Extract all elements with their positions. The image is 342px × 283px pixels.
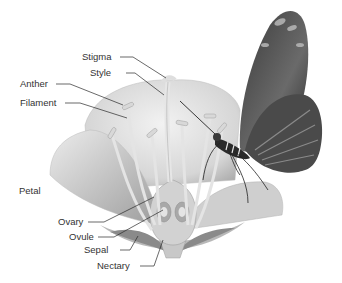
label-petal: Petal — [19, 186, 41, 196]
flower-illustration — [0, 0, 342, 283]
head — [213, 133, 221, 141]
label-filament: Filament — [20, 98, 56, 108]
label-stigma: Stigma — [82, 52, 112, 62]
label-nectary: Nectary — [97, 261, 130, 271]
label-ovule: Ovule — [69, 232, 94, 242]
label-style: Style — [90, 68, 111, 78]
flower-diagram: Stigma Style Anther Filament Petal Ovary… — [0, 0, 342, 283]
leader-stigma — [120, 57, 166, 78]
label-ovary: Ovary — [58, 217, 83, 227]
label-sepal: Sepal — [84, 245, 108, 255]
label-anther: Anther — [20, 79, 48, 89]
